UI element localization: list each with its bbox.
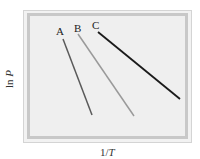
line-c — [98, 32, 180, 99]
series-label-c: C — [92, 19, 99, 31]
series-label-b: B — [74, 22, 81, 34]
plot-area — [0, 0, 200, 159]
y-axis-label: ln P — [3, 70, 15, 88]
line-a — [63, 39, 92, 115]
line-b — [78, 34, 134, 116]
series-label-a: A — [56, 25, 64, 37]
x-axis-label: 1/T — [100, 146, 115, 158]
